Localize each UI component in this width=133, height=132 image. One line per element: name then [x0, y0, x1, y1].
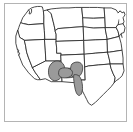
state-colorado [56, 40, 84, 55]
state-missouri [107, 36, 122, 52]
state-kansas [84, 39, 108, 54]
state-wyoming [55, 27, 84, 42]
state-oregon [18, 23, 45, 41]
range-map-figure: Outline map of the western United States… [0, 0, 133, 132]
range-area-connector [59, 68, 73, 78]
state-washington [21, 6, 44, 24]
us-range-map-svg: Outline map of the western United States… [5, 4, 126, 121]
coast-notch-puget [29, 9, 32, 13]
state-boundaries-layer [16, 6, 125, 105]
state-arkansas [108, 50, 123, 64]
state-nebraska [83, 27, 107, 41]
state-south-dakota [83, 18, 106, 28]
map-frame: Outline map of the western United States… [4, 3, 127, 122]
state-north-dakota [82, 7, 105, 18]
